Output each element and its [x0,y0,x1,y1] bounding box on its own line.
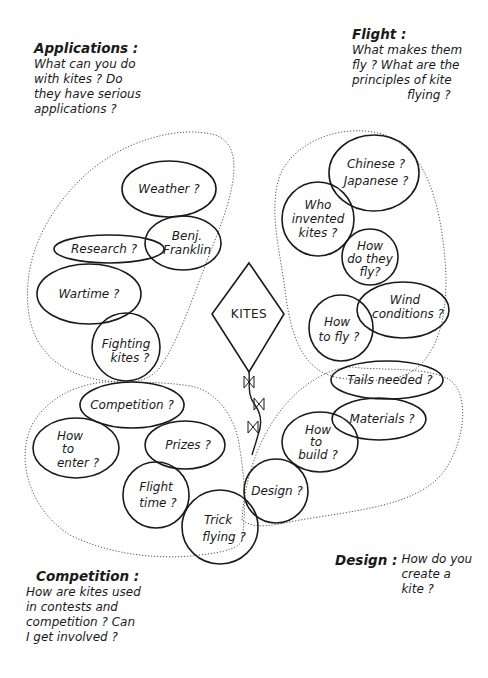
svg-text:Prizes ?: Prizes ? [165,438,211,452]
svg-text:invented: invented [292,212,345,226]
svg-text:kites ?: kites ? [111,351,150,365]
svg-text:Chinese ?: Chinese ? [347,157,406,171]
svg-text:Tails needed ?: Tails needed ? [347,373,433,387]
svg-text:Wartime ?: Wartime ? [59,287,120,301]
node-flight-time[interactable]: Flight time ? [123,462,189,528]
svg-text:build ?: build ? [298,448,338,462]
svg-text:fly?: fly? [359,265,381,279]
svg-text:How: How [57,429,83,443]
node-fighting-kites[interactable]: Fighting kites ? [92,313,160,381]
mind-map: KITES Weather ? Benj. Franklin Research … [0,0,488,678]
svg-text:enter ?: enter ? [57,456,100,470]
svg-text:conditions ?: conditions ? [372,307,445,321]
node-trick-flying[interactable]: Trick flying ? [182,490,258,564]
svg-text:Weather ?: Weather ? [138,182,200,196]
svg-text:to: to [62,442,74,456]
node-who-invented[interactable]: Who invented kites ? [282,182,354,256]
node-benj-franklin[interactable]: Benj. Franklin [145,216,221,270]
design-group-outline [242,367,463,526]
node-wind-conditions[interactable]: Wind conditions ? [357,282,449,338]
node-how-do-they-fly[interactable]: How do they fly? [342,229,398,285]
svg-text:to: to [310,435,322,449]
node-tails-needed[interactable]: Tails needed ? [331,361,443,399]
svg-text:How: How [324,315,350,329]
tail-bow-icon [248,421,258,433]
svg-text:kites ?: kites ? [299,226,338,240]
svg-text:to fly ?: to fly ? [319,330,361,344]
tail-bow-icon [254,398,264,410]
svg-text:Competition ?: Competition ? [90,398,174,412]
node-weather[interactable]: Weather ? [122,161,216,217]
node-how-to-fly[interactable]: How to fly ? [309,295,373,361]
node-how-to-enter[interactable]: How to enter ? [33,418,119,478]
svg-text:time ?: time ? [139,496,177,510]
node-chinese-japanese[interactable]: Chinese ? Japanese ? [329,135,419,211]
kite-icon: KITES [212,263,284,455]
node-how-to-build[interactable]: How to build ? [282,412,358,472]
center-label: KITES [231,307,267,321]
svg-text:How: How [357,239,383,253]
svg-text:Trick: Trick [204,513,233,527]
svg-text:Who: Who [305,198,332,212]
svg-text:Benj.: Benj. [172,229,202,243]
svg-text:Design ?: Design ? [251,484,303,498]
node-research[interactable]: Research ? [54,235,164,263]
svg-text:Flight: Flight [139,480,174,494]
svg-text:flying ?: flying ? [202,530,246,544]
svg-text:Materials ?: Materials ? [349,412,415,426]
node-design[interactable]: Design ? [244,459,308,523]
node-materials[interactable]: Materials ? [332,398,426,440]
svg-text:do they: do they [347,252,393,266]
svg-text:Wind: Wind [390,293,421,307]
svg-text:Fighting: Fighting [102,337,151,351]
svg-text:Japanese ?: Japanese ? [342,174,409,188]
svg-text:Research ?: Research ? [71,242,138,256]
node-wartime[interactable]: Wartime ? [37,264,141,324]
svg-text:Franklin: Franklin [163,243,211,257]
